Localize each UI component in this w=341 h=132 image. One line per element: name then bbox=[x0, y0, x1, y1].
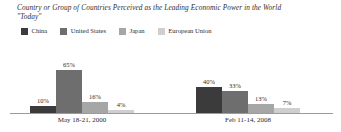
bar-group-1-bars: 40% 33% 13% 7% bbox=[196, 40, 300, 113]
bar-european-union-1[interactable]: 7% bbox=[274, 40, 300, 113]
legend-item-label: Japan bbox=[130, 27, 145, 35]
legend-item-european-union[interactable]: European Union bbox=[158, 27, 212, 35]
bar-value-label: 13% bbox=[255, 95, 267, 103]
legend-swatch-icon bbox=[158, 28, 165, 35]
legend-item-united-states[interactable]: United States bbox=[60, 27, 106, 35]
bar-group-1-label: Feb 11-14, 2008 bbox=[196, 116, 300, 125]
bar-rect[interactable] bbox=[222, 91, 248, 113]
legend-item-china[interactable]: China bbox=[21, 27, 47, 35]
bar-value-label: 40% bbox=[203, 78, 215, 86]
chart-title-line-1: Country or Group of Countries Perceived … bbox=[17, 3, 281, 12]
bar-group-0-bars: 10% 65% 16% 4% bbox=[30, 40, 134, 113]
bar-rect[interactable] bbox=[56, 70, 82, 113]
bar-value-label: 10% bbox=[37, 97, 49, 105]
bar-rect[interactable] bbox=[196, 87, 222, 113]
x-axis-baseline bbox=[10, 113, 333, 114]
bar-value-label: 4% bbox=[117, 101, 126, 109]
legend-item-japan[interactable]: Japan bbox=[119, 27, 145, 35]
legend-item-label: United States bbox=[71, 27, 106, 35]
bar-value-label: 33% bbox=[229, 82, 241, 90]
bar-rect[interactable] bbox=[82, 102, 108, 113]
bar-european-union-0[interactable]: 4% bbox=[108, 40, 134, 113]
chart-title: Country or Group of Countries Perceived … bbox=[17, 3, 327, 22]
bar-rect[interactable] bbox=[30, 106, 56, 113]
bar-value-label: 7% bbox=[283, 99, 292, 107]
bar-value-label: 65% bbox=[63, 61, 75, 69]
bar-value-label: 16% bbox=[89, 93, 101, 101]
bar-japan-1[interactable]: 13% bbox=[248, 40, 274, 113]
bar-rect[interactable] bbox=[248, 104, 274, 113]
bar-rect[interactable] bbox=[108, 110, 134, 113]
bar-rect[interactable] bbox=[274, 108, 300, 113]
plot-area: 10% 65% 16% 4% May 18-21, 2000 bbox=[0, 40, 341, 114]
chart-title-line-2: "Today" bbox=[17, 12, 327, 21]
legend-swatch-icon bbox=[21, 28, 28, 35]
bar-united-states-0[interactable]: 65% bbox=[56, 40, 82, 113]
legend-swatch-icon bbox=[60, 28, 67, 35]
chart-legend: China United States Japan European Union bbox=[21, 27, 225, 35]
legend-swatch-icon bbox=[119, 28, 126, 35]
bar-japan-0[interactable]: 16% bbox=[82, 40, 108, 113]
legend-item-label: China bbox=[32, 27, 48, 35]
bar-chart: Country or Group of Countries Perceived … bbox=[0, 0, 341, 132]
bar-china-1[interactable]: 40% bbox=[196, 40, 222, 113]
legend-item-label: European Union bbox=[168, 27, 211, 35]
bar-group-0-label: May 18-21, 2000 bbox=[30, 116, 134, 125]
bar-china-0[interactable]: 10% bbox=[30, 40, 56, 113]
bar-united-states-1[interactable]: 33% bbox=[222, 40, 248, 113]
